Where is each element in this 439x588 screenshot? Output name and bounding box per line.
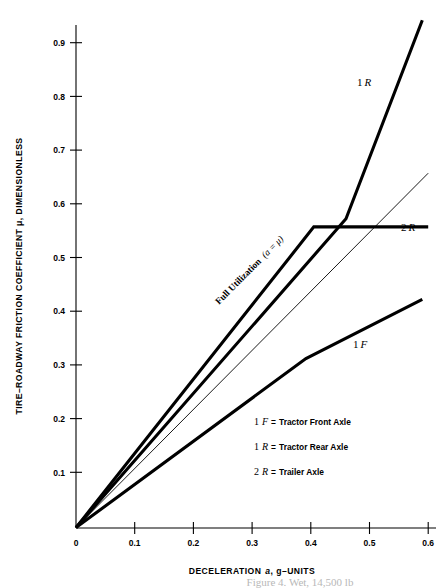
axis-group — [76, 25, 436, 528]
x-axis-title: DECELERATIONa, g–UNITS — [189, 566, 315, 576]
y-tick-label: 0.2 — [53, 414, 65, 424]
x-tick-label: 0.5 — [364, 538, 376, 548]
y-tick-label: 0.9 — [53, 38, 65, 48]
y-tick-labels: 0.1 0.2 0.3 0.4 0.5 0.6 0.7 0.8 0.9 — [53, 38, 65, 478]
y-tick-label: 0.5 — [53, 253, 65, 263]
x-tick-label: 0 — [74, 538, 79, 548]
y-tick-label: 0.6 — [53, 199, 65, 209]
y-tick-label: 0.8 — [53, 92, 65, 102]
curve-1f-tractor-front-axle — [76, 299, 422, 527]
y-tick-label: 0.3 — [53, 360, 65, 370]
x-tick-label: 0.1 — [129, 538, 141, 548]
x-tick-label: 0.2 — [187, 538, 199, 548]
y-axis-title: TIRE–ROADWAY FRICTION COEFFICIENT μ, DIM… — [14, 138, 24, 415]
figure-caption: Figure 4. Wet, 14,500 lb — [247, 576, 354, 588]
legend-item: 1F=Tractor Front Axle — [254, 416, 351, 427]
legend-item: 1R=Tractor Rear Axle — [254, 441, 348, 452]
x-tick-label: 0.3 — [246, 538, 258, 548]
friction-coefficient-chart: 0.1 0.2 0.3 0.4 0.5 0.6 0.7 0.8 0.9 0 0.… — [0, 0, 439, 588]
legend-item: 2R=Trailer Axle — [254, 466, 324, 477]
x-tick-labels: 0 0.1 0.2 0.3 0.4 0.5 0.6 — [74, 538, 435, 548]
curve-label-2r: 2R — [401, 221, 416, 233]
chart-canvas: 0.1 0.2 0.3 0.4 0.5 0.6 0.7 0.8 0.9 0 0.… — [0, 0, 439, 588]
y-tick-label: 0.7 — [53, 145, 65, 155]
x-tick-label: 0.4 — [305, 538, 317, 548]
x-tick-label: 0.6 — [422, 538, 434, 548]
curve-label-1f: 1F — [353, 338, 368, 350]
curve-label-1r: 1R — [357, 76, 372, 88]
y-tick-label: 0.4 — [53, 306, 65, 316]
full-utilization-label: Full Utilization(a = μ) — [213, 234, 286, 307]
y-tick-label: 0.1 — [53, 468, 65, 478]
legend: 1F=Tractor Front Axle 1R=Tractor Rear Ax… — [254, 416, 351, 477]
